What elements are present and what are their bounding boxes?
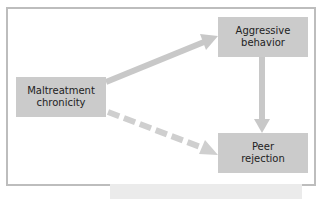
- node-label-line: chronicity: [27, 97, 95, 109]
- node-label-line: Aggressive: [236, 25, 291, 37]
- node-label-line: rejection: [241, 153, 285, 165]
- node-label-line: Maltreatment: [27, 85, 95, 97]
- node-label-line: Peer: [241, 141, 285, 153]
- node-peer-rejection: Peer rejection: [218, 133, 308, 173]
- caption-strip: [110, 184, 302, 199]
- node-maltreatment-chronicity: Maltreatment chronicity: [16, 77, 106, 117]
- node-label-line: behavior: [236, 37, 291, 49]
- arrow-aggressive-to-peer: [254, 57, 270, 133]
- arrow-maltreatment-to-aggressive: [106, 34, 218, 82]
- node-aggressive-behavior: Aggressive behavior: [218, 17, 308, 57]
- arrow-maltreatment-to-peer-dashed: [108, 112, 218, 155]
